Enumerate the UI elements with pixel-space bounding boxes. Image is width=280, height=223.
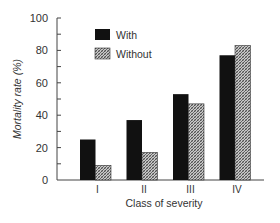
bars [80,46,251,180]
bar-with-iii [173,94,189,180]
bar-without-iv [235,46,251,180]
x-tick-labels: IIIIIIIV [96,184,242,195]
bar-with-i [80,140,96,181]
x-tick-label: III [186,184,194,195]
y-tick-label: 100 [30,12,48,24]
y-tick-label: 40 [36,109,48,121]
legend: With Without [95,29,152,60]
x-tick-label: I [96,184,99,195]
bar-without-ii [142,152,158,180]
bar-without-i [96,165,112,180]
bar-with-ii [127,120,143,180]
bar-chart: 020406080100 IIIIIIIV Mortality rate (%)… [0,0,280,223]
legend-swatch-without [95,48,110,59]
x-tick-label: IV [232,184,242,195]
y-ticks: 020406080100 [30,12,61,186]
y-tick-label: 0 [42,174,48,186]
y-tick-label: 80 [36,44,48,56]
bar-without-iii [189,104,205,180]
legend-swatch-with [95,29,110,40]
y-axis-title: Mortality rate (%) [11,59,23,139]
y-tick-label: 20 [36,142,48,154]
bar-with-iv [220,55,236,180]
legend-label-without: Without [116,48,152,60]
x-axis-title: Class of severity [125,197,203,209]
y-tick-label: 60 [36,77,48,89]
legend-label-with: With [116,29,137,41]
x-tick-label: II [141,184,147,195]
